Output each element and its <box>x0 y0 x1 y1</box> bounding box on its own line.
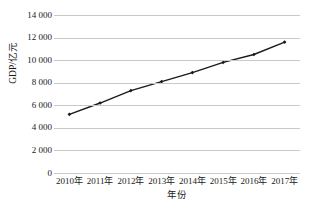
x-tick-label: 2017年 <box>265 176 305 187</box>
gridline <box>54 83 300 84</box>
y-tick-label: 2 000 <box>12 146 52 155</box>
gridline <box>54 150 300 151</box>
gridline <box>54 38 300 39</box>
y-tick-label: 10 000 <box>12 56 52 65</box>
gridline <box>54 173 300 174</box>
y-tick-label: 14 000 <box>12 11 52 20</box>
y-tick-label: 8 000 <box>12 78 52 87</box>
gridline <box>54 105 300 106</box>
plot-area <box>54 15 300 173</box>
gridline <box>54 128 300 129</box>
y-tick-label: 6 000 <box>12 101 52 110</box>
y-tick-label: 4 000 <box>12 123 52 132</box>
gridline <box>54 15 300 16</box>
series-line <box>69 42 284 114</box>
data-series-gdp <box>54 15 300 173</box>
data-point-marker <box>252 53 256 57</box>
gridline <box>54 60 300 61</box>
data-point-marker <box>129 89 133 93</box>
data-point-marker <box>283 40 287 44</box>
y-tick-label: 12 000 <box>12 33 52 42</box>
data-point-marker <box>68 112 72 116</box>
line-chart: GDP/亿元 02 0004 0006 0008 00010 00012 000… <box>0 0 314 209</box>
x-axis-tick-labels: 2010年2011年2012年2013年2014年2015年2016年2017年 <box>40 176 314 190</box>
x-axis-title: 年份 <box>54 190 300 201</box>
data-point-marker <box>191 71 195 75</box>
